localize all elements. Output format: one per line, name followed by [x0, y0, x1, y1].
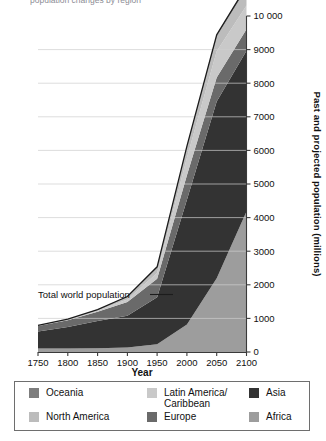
legend-label-africa: Africa [266, 411, 292, 422]
legend-item-latin-america-caribbean[interactable]: Latin America/ Caribbean [147, 387, 249, 409]
y-tick-label: 1000 [254, 313, 275, 324]
legend-label-oceania: Oceania [46, 387, 83, 398]
legend-swatch-africa [249, 412, 259, 422]
x-tick-label: 1750 [27, 357, 48, 368]
total-world-population-annotation: Total world population [38, 289, 130, 300]
legend-swatch-oceania [29, 388, 39, 398]
y-tick-label: 4000 [254, 212, 275, 223]
x-tick-label: 1850 [87, 357, 108, 368]
legend-swatch-north-america [29, 412, 39, 422]
population-stacked-area-chart: population changes by region 01000200030… [0, 0, 326, 441]
legend-swatch-latin-america-caribbean [147, 388, 157, 398]
y-tick-label: 10 000 [254, 10, 283, 21]
x-tick-label: 1800 [57, 357, 78, 368]
y-tick-label: 5000 [254, 178, 275, 189]
legend-item-north-america[interactable]: North America [29, 411, 147, 422]
y-tick-label: 2000 [254, 279, 275, 290]
legend-item-asia[interactable]: Asia [249, 387, 325, 398]
legend-label-north-america: North America [46, 411, 109, 422]
x-tick-label: 2000 [176, 357, 197, 368]
legend-label-asia: Asia [266, 387, 285, 398]
y-tick-label: 9000 [254, 44, 275, 55]
y-tick-label: 3000 [254, 246, 275, 257]
x-tick-label: 2050 [206, 357, 227, 368]
legend-item-europe[interactable]: Europe [147, 411, 249, 422]
x-axis-title: Year [131, 367, 152, 378]
legend: Oceania Latin America/ Caribbean Asia No… [14, 381, 310, 431]
legend-label-latin-america-caribbean: Latin America/ Caribbean [164, 387, 227, 409]
cut-off-figure-title: population changes by region [30, 0, 260, 5]
legend-label-europe: Europe [164, 411, 196, 422]
legend-item-africa[interactable]: Africa [249, 411, 325, 422]
legend-swatch-asia [249, 388, 259, 398]
y-tick-label: 8000 [254, 78, 275, 89]
x-tick-group: 17501800185019001950200020502100 [27, 352, 257, 368]
legend-grid: Oceania Latin America/ Caribbean Asia No… [15, 382, 309, 430]
legend-item-oceania[interactable]: Oceania [29, 387, 147, 398]
x-tick-label: 2100 [236, 357, 257, 368]
y-tick-label: 6000 [254, 145, 275, 156]
legend-swatch-europe [147, 412, 157, 422]
chart-plot-area: 010002000300040005000600070008000900010 … [0, 0, 326, 378]
y-tick-group: 010002000300040005000600070008000900010 … [247, 10, 283, 357]
y-tick-label: 7000 [254, 111, 275, 122]
y-axis-title: Past and projected population (millions) [312, 91, 323, 276]
y-tick-label: 0 [254, 346, 259, 357]
